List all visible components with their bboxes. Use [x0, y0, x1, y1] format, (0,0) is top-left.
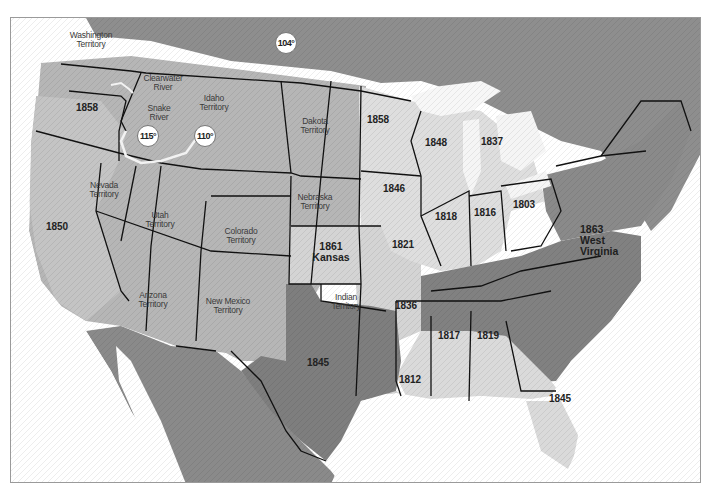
label-new-mexico-territory: New MexicoTerritory — [206, 297, 250, 315]
label-line: Territory — [332, 301, 361, 311]
label-year-texas: 1845 — [307, 358, 329, 369]
label-line: Territory — [146, 219, 175, 229]
label-kansas-name: Kansas — [312, 251, 349, 263]
label-line: Territory — [227, 235, 256, 245]
label-utah-territory: UtahTerritory — [146, 211, 175, 229]
label-snake-river: SnakeRiver — [147, 104, 170, 122]
label-year-illinois: 1818 — [435, 212, 457, 223]
label-line: River — [154, 82, 173, 92]
meridian-marker-110: 110° — [194, 125, 216, 147]
label-year-louisiana: 1812 — [399, 375, 421, 386]
meridian-marker-115: 115° — [137, 125, 159, 147]
label-year-iowa: 1846 — [383, 184, 405, 195]
label-year-florida: 1845 — [549, 394, 571, 405]
label-west-virginia: 1863WestVirginia — [580, 224, 618, 257]
label-year-missouri: 1821 — [392, 240, 414, 251]
meridian-marker-104: 104° — [275, 32, 297, 54]
label-line: Territory — [301, 125, 330, 135]
label-year-michigan: 1837 — [481, 137, 503, 148]
label-nebraska-territory: NebraskaTerritory — [298, 193, 333, 211]
label-year-alabama: 1819 — [477, 331, 499, 342]
label-washington-territory: WashingtonTerritory — [70, 31, 113, 49]
label-arizona-territory: ArizonaTerritory — [139, 291, 168, 309]
label-year-ohio: 1803 — [513, 200, 535, 211]
label-dakota-territory: DakotaTerritory — [301, 117, 330, 135]
label-year-arkansas: 1836 — [395, 301, 417, 312]
label-indian-territory: IndianTerritory — [332, 293, 361, 311]
label-year-california: 1850 — [46, 222, 68, 233]
label-clearwater-river: ClearwaterRiver — [143, 74, 182, 92]
label-wv-line: Virginia — [580, 245, 618, 257]
label-year-mississippi: 1817 — [438, 331, 460, 342]
label-line: Territory — [139, 299, 168, 309]
label-year-oregon: 1858 — [76, 103, 98, 114]
label-kansas: 1861Kansas — [312, 241, 349, 263]
label-line: Territory — [214, 305, 243, 315]
label-line: Territory — [90, 189, 119, 199]
label-idaho-territory: IdahoTerritory — [200, 94, 229, 112]
label-year-wisconsin: 1848 — [425, 138, 447, 149]
label-year-minnesota: 1858 — [367, 115, 389, 126]
label-line: Territory — [77, 39, 106, 49]
label-nevada-territory: NevadaTerritory — [90, 181, 119, 199]
label-line: River — [150, 112, 169, 122]
label-line: Territory — [200, 102, 229, 112]
label-line: Territory — [301, 201, 330, 211]
label-year-indiana: 1816 — [474, 208, 496, 219]
label-colorado-territory: ColoradoTerritory — [225, 227, 258, 245]
